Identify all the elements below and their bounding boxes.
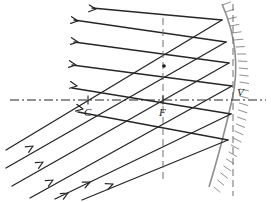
ray-diagram-figure: C F V [0,0,271,202]
incident-ray-4 [30,86,232,198]
reflected-ray-5 [72,88,231,114]
label-center-of-curvature: C [84,106,92,118]
incident-ray-bundle [6,20,232,200]
incident-ray-5 [55,114,231,199]
label-vertex: V [237,86,245,98]
convergence-point [162,64,166,68]
reflected-ray-1 [92,8,222,20]
incident-ray-2 [6,42,226,168]
concave-mirror-surface [209,4,236,187]
reflected-ray-3 [74,42,229,63]
ray-diagram-canvas: C F V [0,0,271,202]
mirror-curve-path [209,4,236,187]
label-focal-point: F [158,106,166,118]
incident-ray-6 [82,140,228,200]
optical-axis [10,96,266,105]
